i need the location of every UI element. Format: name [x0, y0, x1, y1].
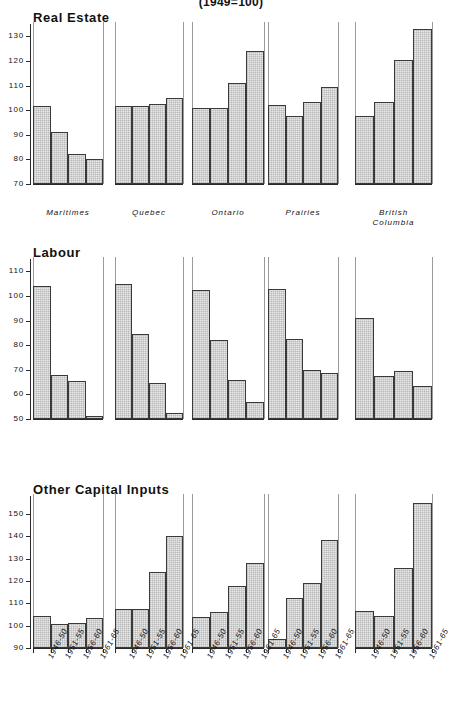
y-axis-tick — [26, 514, 31, 515]
bar[interactable] — [374, 102, 393, 184]
bar[interactable] — [268, 289, 286, 419]
group-frame-rule — [183, 494, 184, 648]
y-axis-tick-label: 100 — [0, 621, 24, 630]
x-axis-tick — [432, 649, 433, 653]
bar[interactable] — [149, 383, 166, 419]
y-axis-tick — [26, 184, 31, 185]
bar[interactable] — [51, 375, 69, 419]
x-axis-tick — [132, 649, 133, 653]
bar[interactable] — [149, 104, 166, 184]
x-axis-tick — [264, 649, 265, 653]
y-axis-tick — [26, 345, 31, 346]
region-label: Ontario — [192, 208, 264, 218]
y-axis-tick-label: 60 — [0, 389, 24, 398]
y-axis-tick-label: 80 — [0, 154, 24, 163]
bar[interactable] — [286, 339, 304, 419]
y-axis-tick-label: 110 — [0, 598, 24, 607]
bar[interactable] — [192, 108, 210, 184]
y-axis-tick-label: 70 — [0, 365, 24, 374]
x-axis-tick — [86, 649, 87, 653]
bar[interactable] — [246, 402, 264, 419]
bar[interactable] — [132, 334, 149, 419]
bar[interactable] — [303, 102, 321, 184]
region-label: British Columbia — [355, 208, 432, 228]
bar[interactable] — [355, 318, 374, 419]
bar[interactable] — [355, 611, 374, 648]
region-label: Quebec — [115, 208, 183, 218]
x-axis-tick — [286, 649, 287, 653]
y-axis-tick — [26, 271, 31, 272]
group-baseline — [268, 419, 338, 420]
group-baseline — [192, 184, 264, 185]
bar[interactable] — [394, 371, 413, 419]
panel-title: Other Capital Inputs — [33, 482, 169, 497]
y-axis-tick — [26, 581, 31, 582]
bar[interactable] — [246, 51, 264, 184]
bar[interactable] — [86, 416, 104, 419]
y-axis-tick-label: 90 — [0, 316, 24, 325]
x-axis-tick — [355, 649, 356, 653]
x-axis-tick — [183, 649, 184, 653]
bar[interactable] — [321, 87, 339, 184]
bar[interactable] — [303, 370, 321, 419]
x-axis-tick — [51, 649, 52, 653]
bar[interactable] — [68, 154, 86, 184]
bar[interactable] — [210, 340, 228, 419]
bar[interactable] — [51, 132, 69, 184]
bar[interactable] — [86, 159, 104, 184]
bar[interactable] — [68, 381, 86, 419]
bar[interactable] — [115, 106, 132, 184]
y-axis-tick-label: 140 — [0, 531, 24, 540]
y-axis-tick — [26, 135, 31, 136]
bar[interactable] — [355, 116, 374, 184]
y-axis-tick-label: 90 — [0, 643, 24, 652]
group-frame-rule — [264, 257, 265, 419]
bar[interactable] — [321, 373, 339, 419]
x-axis-tick — [268, 649, 269, 653]
x-axis-tick — [68, 649, 69, 653]
y-axis-tick — [26, 110, 31, 111]
group-baseline — [192, 419, 264, 420]
y-axis-tick-label: 90 — [0, 130, 24, 139]
x-axis-tick — [303, 649, 304, 653]
y-axis-tick — [26, 419, 31, 420]
y-axis-tick-label: 100 — [0, 105, 24, 114]
y-axis-tick — [26, 626, 31, 627]
y-axis-tick-label: 130 — [0, 554, 24, 563]
bar[interactable] — [210, 108, 228, 184]
x-axis-tick — [192, 649, 193, 653]
group-baseline — [268, 184, 338, 185]
bar[interactable] — [374, 376, 393, 419]
bar[interactable] — [33, 616, 51, 648]
bar[interactable] — [228, 83, 246, 184]
y-axis-tick — [26, 648, 31, 649]
y-axis-tick-label: 150 — [0, 509, 24, 518]
bar[interactable] — [33, 106, 51, 184]
bar[interactable] — [115, 284, 132, 419]
bar[interactable] — [132, 106, 149, 184]
bar[interactable] — [394, 60, 413, 184]
group-baseline — [355, 184, 432, 185]
x-axis-tick — [103, 649, 104, 653]
bar[interactable] — [228, 380, 246, 419]
bar[interactable] — [166, 413, 183, 419]
y-axis-tick — [26, 536, 31, 537]
y-axis-tick-label: 50 — [0, 414, 24, 423]
bar[interactable] — [268, 105, 286, 184]
x-axis-tick — [33, 649, 34, 653]
group-frame-rule — [264, 494, 265, 648]
group-frame-rule — [432, 257, 433, 419]
bar[interactable] — [413, 386, 432, 419]
y-axis-tick-label: 100 — [0, 291, 24, 300]
bar[interactable] — [33, 286, 51, 419]
group-frame-rule — [338, 257, 339, 419]
y-axis-tick — [26, 603, 31, 604]
group-baseline — [355, 419, 432, 420]
bar[interactable] — [166, 98, 183, 184]
group-frame-rule — [268, 494, 269, 648]
bar[interactable] — [286, 116, 304, 184]
group-baseline — [115, 419, 183, 420]
bar[interactable] — [192, 290, 210, 419]
x-axis-tick — [149, 649, 150, 653]
group-frame-rule — [103, 494, 104, 648]
